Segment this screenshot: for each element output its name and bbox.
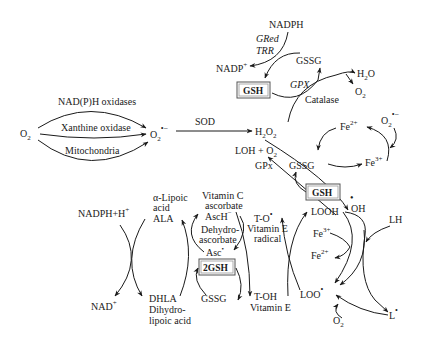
nad-label: NAD+ — [91, 299, 117, 312]
top-glutathione-cycle: NADPH GRed TRR NADP+ GSSG GSH GPX Catala… — [216, 19, 375, 122]
catalase-label: Catalase — [305, 94, 339, 105]
toh-label: T-OH — [254, 291, 277, 302]
nadph-oxidases-label: NAD(P)H oxidases — [58, 96, 136, 108]
lipoic-acid-label-2: acid — [153, 202, 170, 213]
arrow-dhla-to-ala — [180, 220, 189, 296]
gpx-middle-label: GPx — [255, 160, 273, 171]
vite-radical-label-2: radical — [254, 233, 281, 244]
vitamin-e-cycle: T-O• Vitamin E radical T-OH Vitamin E — [236, 210, 307, 313]
o2-top-label: O2 — [355, 86, 366, 100]
arrow-to-o2 — [346, 74, 353, 84]
oh-radical-label: OH — [351, 203, 365, 214]
fe3-top-label: Fe3+ — [365, 155, 383, 168]
superoxide-right-label: O2•− — [381, 110, 400, 129]
asch-label: AscH− — [205, 209, 232, 222]
sod-step: SOD H2O2 — [176, 116, 277, 140]
h2o-label: H2O — [357, 68, 375, 82]
vitamin-c-cycle: Vitamin C ascorbate AscH− Dehydro- ascor… — [191, 190, 244, 304]
fe3-lower-label: Fe3+ — [313, 226, 331, 239]
lipoic-acid-cycle: NADPH+H+ NAD+ α-Lipoic acid ALA DHLA Dih… — [78, 192, 191, 326]
asc-label: Asc• — [206, 245, 225, 258]
mitochondria-label: Mitochondria — [65, 145, 120, 156]
dihydro-label-1: Dihydro- — [149, 304, 186, 315]
arrow-oh-to-l — [345, 212, 388, 312]
arrow-superoxide-into-cycle — [390, 128, 396, 148]
o2-lower-label: O2 — [333, 315, 344, 329]
sod-label: SOD — [195, 116, 215, 127]
vite-label: Vitamin E — [250, 302, 291, 313]
ros-sources: O2 NAD(P)H oxidases Xanthine oxidase Mit… — [20, 96, 169, 161]
arrow-2gsh-to-gssg — [236, 268, 241, 300]
gsh-middle-label: GSH — [312, 188, 333, 198]
xanthine-oxidase-label: Xanthine oxidase — [61, 122, 131, 133]
looh-label: LOOH — [311, 206, 339, 217]
arrow-gssg-to-gsh — [265, 53, 300, 78]
l-radical-label: L• — [389, 306, 398, 321]
gsh-top-label: GSH — [243, 86, 264, 96]
nadph-h-label: NADPH+H+ — [78, 206, 129, 219]
trr-label: TRR — [256, 45, 274, 56]
oh-dot: • — [350, 192, 354, 203]
fe2-top-label: Fe2+ — [340, 119, 358, 132]
loo-label: LOO• — [300, 285, 324, 300]
gssg-lower-label: GSSG — [201, 293, 227, 304]
arrow-fe2-down — [318, 128, 336, 150]
nadp-label: NADP+ — [216, 61, 247, 74]
gred-label: GRed — [256, 33, 280, 44]
gssg-middle-label: GSSG — [289, 160, 315, 171]
iron-cycle: Fe2+ Fe3+ O2•− — [318, 110, 400, 168]
arrow-nadph-to-nad — [115, 225, 131, 296]
middle-peroxide: LOH + O2 GPx GSSG GSH • OH — [235, 140, 365, 215]
o2-left-label: O2 — [20, 128, 31, 142]
lipid-peroxidation: LOOH Fe3+ Fe2+ LH LOO• L• O2 — [300, 206, 402, 329]
gssg-top-label: GSSG — [296, 55, 322, 66]
arrow-lh-in — [366, 226, 390, 242]
nadph-label: NADPH — [269, 19, 303, 30]
dhla-label: DHLA — [149, 293, 178, 304]
ros-antioxidant-diagram: O2 NAD(P)H oxidases Xanthine oxidase Mit… — [0, 0, 424, 339]
ala-label: ALA — [153, 213, 174, 224]
dihydro-label-2: lipoic acid — [149, 315, 191, 326]
arrow-to-fe3 — [328, 164, 362, 167]
loh-o2-label: LOH + O2 — [235, 145, 277, 159]
arrow-xanthine-oxidase — [40, 134, 146, 138]
arrow-ala-to-dhla — [132, 219, 145, 296]
h2o2-label: H2O2 — [255, 126, 277, 140]
dehydroascorbate-label-2: ascorbate — [199, 234, 237, 245]
two-gsh-label: 2GSH — [203, 263, 228, 273]
lh-label: LH — [389, 214, 402, 225]
vitc-label-2: ascorbate — [205, 200, 243, 211]
superoxide-label: O2•− — [150, 124, 169, 143]
fe2-lower-label: Fe2+ — [311, 248, 329, 261]
to-radical-label: T-O• — [254, 210, 273, 224]
arrow-fe3-to-fe2-lower — [330, 233, 350, 258]
